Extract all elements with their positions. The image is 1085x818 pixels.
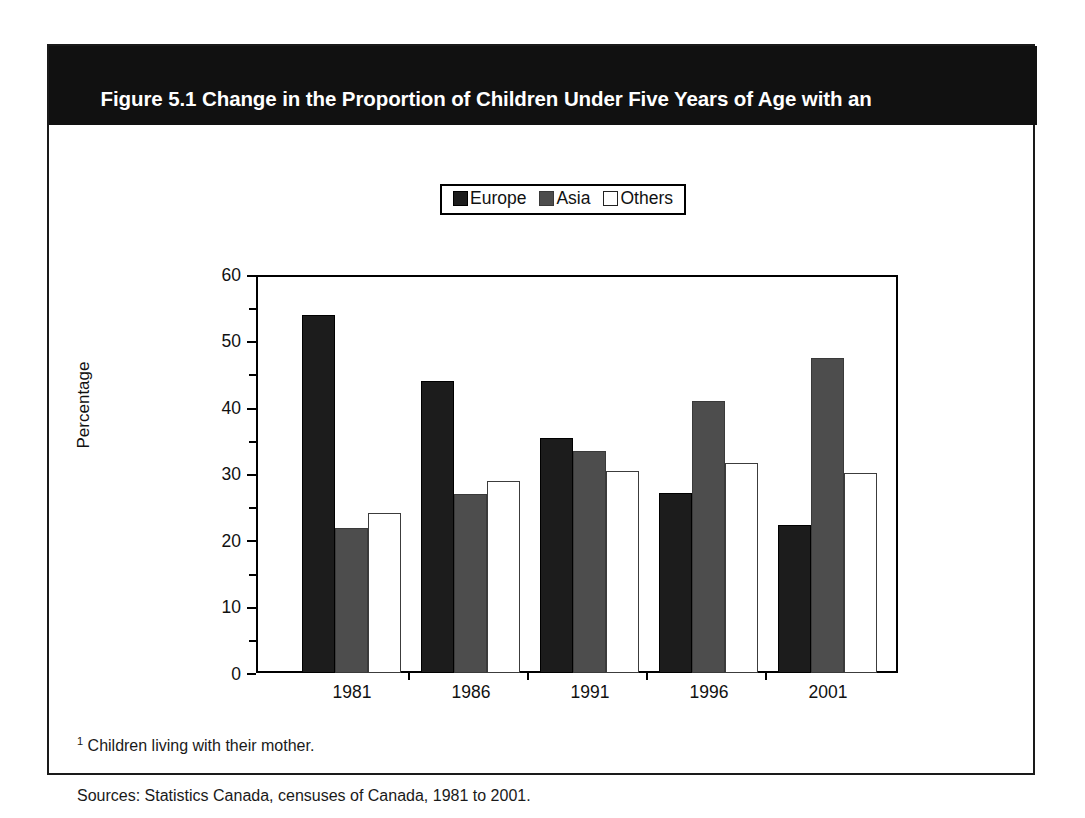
y-tick-mark-45: [249, 374, 256, 376]
figure-container: Figure 5.1 Change in the Proportion of C…: [47, 44, 1035, 775]
y-tick-label-50: 50: [195, 333, 241, 351]
bar-1986-europe: [421, 381, 454, 673]
bar-1996-others: [725, 463, 758, 673]
legend-label-asia: Asia: [556, 190, 590, 208]
bar-2001-others: [844, 473, 877, 673]
y-tick-mark-40: [247, 408, 256, 410]
legend-swatch-others-icon: [603, 191, 618, 206]
legend-item-asia: Asia: [539, 190, 590, 208]
legend-label-europe: Europe: [470, 190, 526, 208]
figure-sources: Sources: Statistics Canada, censuses of …: [77, 787, 531, 805]
y-tick-mark-30: [247, 474, 256, 476]
y-tick-mark-60: [247, 275, 256, 277]
chart-legend: Europe Asia Others: [440, 184, 686, 215]
x-tick-mark-2: [646, 673, 648, 680]
bar-2001-asia: [811, 358, 844, 673]
x-tick-mark-1: [527, 673, 529, 680]
x-tick-label-2001: 2001: [773, 682, 883, 703]
bar-1981-asia: [335, 528, 368, 673]
y-tick-mark-10: [247, 607, 256, 609]
footnote-text: Children living with their mother.: [83, 737, 314, 754]
bar-1996-asia: [692, 401, 725, 673]
bar-1981-others: [368, 513, 401, 673]
chart-area: Percentage 60 50 40 30 20 10 0: [49, 125, 1037, 777]
bar-1986-asia: [454, 494, 487, 673]
bar-1991-others: [606, 471, 639, 673]
bar-1991-europe: [540, 438, 573, 673]
y-tick-label-10: 10: [195, 599, 241, 617]
legend-label-others: Others: [620, 190, 673, 208]
legend-item-europe: Europe: [453, 190, 526, 208]
y-tick-mark-20: [247, 540, 256, 542]
x-tick-label-1981: 1981: [297, 682, 407, 703]
x-tick-label-1996: 1996: [654, 682, 764, 703]
x-tick-label-1991: 1991: [535, 682, 645, 703]
y-tick-mark-0: [247, 673, 256, 675]
y-tick-label-20: 20: [195, 533, 241, 551]
y-tick-mark-5: [249, 640, 256, 642]
bar-1996-europe: [659, 493, 692, 673]
y-tick-mark-55: [249, 308, 256, 310]
legend-swatch-asia-icon: [539, 191, 554, 206]
y-tick-label-0: 0: [195, 666, 241, 684]
legend-item-others: Others: [603, 190, 673, 208]
x-tick-mark-0: [408, 673, 410, 680]
y-tick-label-40: 40: [195, 400, 241, 418]
y-tick-label-60: 60: [195, 267, 241, 285]
y-tick-mark-25: [249, 507, 256, 509]
bar-2001-europe: [778, 525, 811, 673]
figure-title-line-1: Figure 5.1 Change in the Proportion of C…: [101, 87, 872, 110]
y-tick-mark-15: [249, 574, 256, 576]
x-tick-label-1986: 1986: [416, 682, 526, 703]
y-tick-label-30: 30: [195, 466, 241, 484]
figure-footnote: 1 Children living with their mother.: [77, 737, 314, 755]
y-tick-mark-50: [247, 341, 256, 343]
legend-swatch-europe-icon: [453, 191, 468, 206]
bar-1981-europe: [302, 315, 335, 673]
y-tick-mark-35: [249, 441, 256, 443]
bar-1986-others: [487, 481, 520, 673]
y-axis-title: Percentage: [74, 325, 94, 485]
bar-1991-asia: [573, 451, 606, 673]
figure-title-banner: Figure 5.1 Change in the Proportion of C…: [49, 46, 1037, 125]
x-tick-mark-3: [765, 673, 767, 680]
